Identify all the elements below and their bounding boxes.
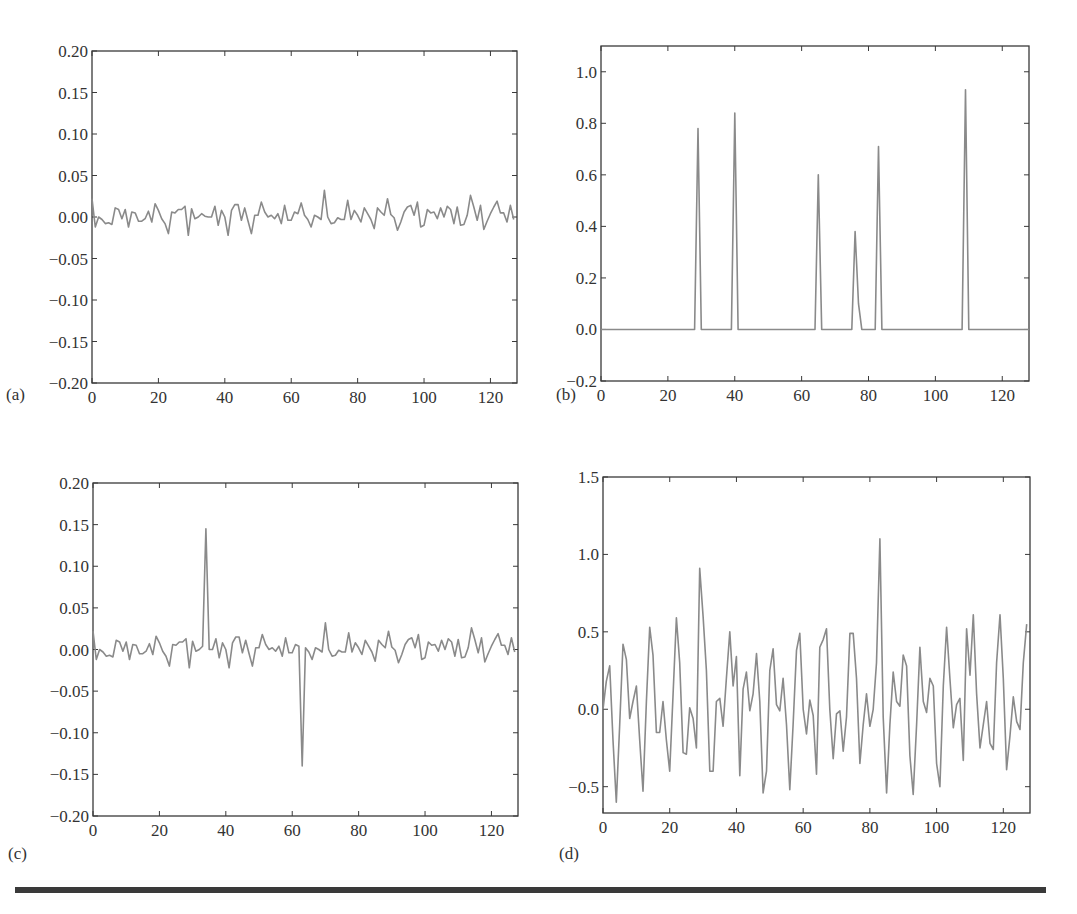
x-tick-label: 20 — [661, 818, 678, 837]
x-tick-label: 120 — [991, 818, 1017, 837]
chart-d-svg: 020406080100120−0.50.00.51.01.5 — [0, 0, 1077, 880]
x-tick-label: 100 — [924, 818, 950, 837]
figure-caption-cut-off — [40, 904, 1040, 914]
x-tick-label: 80 — [861, 818, 878, 837]
y-tick-label: 1.0 — [578, 545, 599, 564]
x-tick-label: 0 — [599, 818, 608, 837]
data-series-line — [603, 539, 1027, 802]
panel-label-d: (d) — [559, 844, 579, 864]
x-tick-label: 60 — [795, 818, 812, 837]
x-tick-label: 40 — [728, 818, 745, 837]
figure-separator-rule — [15, 887, 1046, 893]
y-tick-label: 0.0 — [578, 700, 599, 719]
chart-panel-d: 020406080100120−0.50.00.51.01.5 (d) — [0, 0, 1077, 880]
y-tick-label: 1.5 — [578, 468, 599, 487]
y-tick-label: 0.5 — [578, 623, 599, 642]
y-tick-label: −0.5 — [568, 778, 599, 797]
